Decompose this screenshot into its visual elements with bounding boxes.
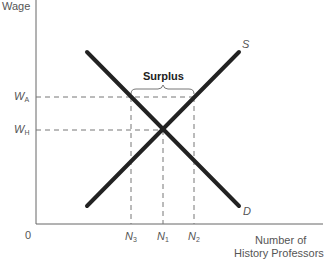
n1-main: N xyxy=(157,230,165,242)
wh-sub: H xyxy=(24,129,29,136)
y-axis-label: Wage xyxy=(2,0,30,12)
wa-sub: A xyxy=(24,96,29,103)
n1-tick-label: N1 xyxy=(157,230,169,243)
supply-curve-label: S xyxy=(242,38,249,50)
n3-tick-label: N3 xyxy=(125,230,137,243)
surplus-label: Surplus xyxy=(143,70,184,82)
wh-tick-label: WH xyxy=(14,123,29,136)
wa-tick-label: WA xyxy=(14,90,29,103)
wh-main: W xyxy=(14,123,24,135)
x-axis-label-line1: Number of xyxy=(255,234,306,246)
surplus-brace xyxy=(131,85,194,94)
x-axis-label-line2: History Professors xyxy=(234,247,324,259)
n3-main: N xyxy=(125,230,133,242)
origin-label: 0 xyxy=(25,229,31,241)
wa-main: W xyxy=(14,90,24,102)
n1-sub: 1 xyxy=(165,236,169,243)
n2-sub: 2 xyxy=(196,236,200,243)
n3-sub: 3 xyxy=(133,236,137,243)
demand-curve-label: D xyxy=(243,205,251,217)
n2-tick-label: N2 xyxy=(188,230,200,243)
n2-main: N xyxy=(188,230,196,242)
